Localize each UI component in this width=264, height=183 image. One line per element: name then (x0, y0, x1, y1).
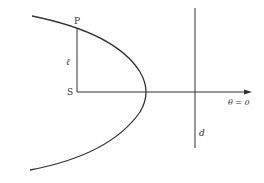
label-distance-l: ℓ (66, 58, 70, 67)
label-axis-theta: θ = 0 (228, 99, 250, 107)
parabola-diagram: P ℓ S d θ = 0 (0, 0, 264, 183)
diagram-canvas (0, 0, 264, 183)
label-directrix-d: d (199, 129, 205, 138)
label-focus-s: S (67, 88, 73, 97)
label-point-p: P (74, 17, 80, 26)
parabola-curve (30, 16, 146, 170)
arrow-head-icon (244, 90, 252, 95)
